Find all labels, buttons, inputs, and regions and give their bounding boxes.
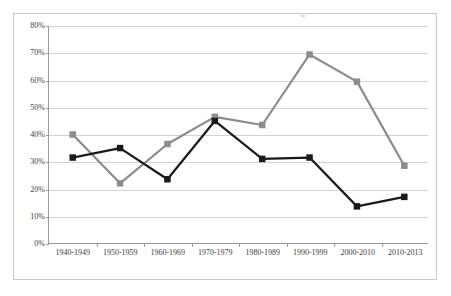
y-axis-tick-label: 10% (30, 213, 45, 221)
x-axis-tick-mark (144, 243, 145, 247)
x-axis-tick-mark (287, 243, 288, 247)
data-point-marker (401, 194, 407, 200)
y-axis-tick-label: 0% (34, 240, 45, 248)
y-axis-tick-label: 40% (30, 131, 45, 139)
x-axis-tick-label: 1990-1999 (293, 249, 328, 257)
chart-frame: 0%10%20%30%40%50%60%70%80% 1940-19491950… (13, 13, 437, 280)
x-axis-tick-label: 1950-1959 (103, 249, 138, 257)
y-axis-tick-label: 50% (30, 104, 45, 112)
top-artifact (301, 15, 305, 17)
data-point-marker (306, 154, 312, 160)
series-line (73, 54, 405, 183)
data-point-marker (69, 131, 75, 137)
x-axis-tick-mark (97, 243, 98, 247)
y-axis-tick-label: 70% (30, 49, 45, 57)
data-point-marker (117, 145, 123, 151)
y-axis-tick-label: 60% (30, 77, 45, 85)
data-point-marker (354, 78, 360, 84)
y-axis-tick-mark (46, 244, 49, 245)
data-point-marker (354, 203, 360, 209)
plot-area: 0%10%20%30%40%50%60%70%80% 1940-19491950… (48, 26, 428, 244)
x-axis-tick-mark (192, 243, 193, 247)
y-axis-tick-label: 80% (30, 22, 45, 30)
data-point-marker (164, 141, 170, 147)
y-axis-tick-label: 30% (30, 158, 45, 166)
series-line (73, 121, 405, 206)
x-axis-tick-label: 1960-1969 (150, 249, 185, 257)
data-point-marker (212, 118, 218, 124)
series-layer (49, 26, 428, 243)
x-axis-tick-label: 2010-2013 (388, 249, 423, 257)
data-point-marker (259, 122, 265, 128)
x-axis-tick-label: 1980-1989 (245, 249, 280, 257)
x-axis-tick-mark (334, 243, 335, 247)
data-point-marker (117, 180, 123, 186)
x-axis-tick-label: 1940-1949 (55, 249, 90, 257)
y-axis-tick-label: 20% (30, 186, 45, 194)
x-axis-tick-mark (382, 243, 383, 247)
data-point-marker (69, 154, 75, 160)
x-axis-tick-mark (239, 243, 240, 247)
data-point-marker (164, 176, 170, 182)
data-point-marker (259, 156, 265, 162)
data-point-marker (401, 162, 407, 168)
x-axis-tick-label: 2000-2010 (340, 249, 375, 257)
data-point-marker (306, 51, 312, 57)
x-axis-tick-label: 1970-1979 (198, 249, 233, 257)
